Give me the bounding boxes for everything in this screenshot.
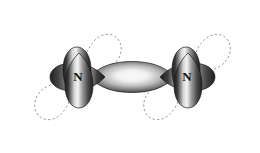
nitrogen-left-label: N	[73, 69, 83, 84]
nitrogen-right-label: N	[182, 69, 192, 84]
orbital-diagram-figure: N N	[0, 0, 260, 153]
orbital-diagram-canvas: N N	[0, 0, 260, 153]
